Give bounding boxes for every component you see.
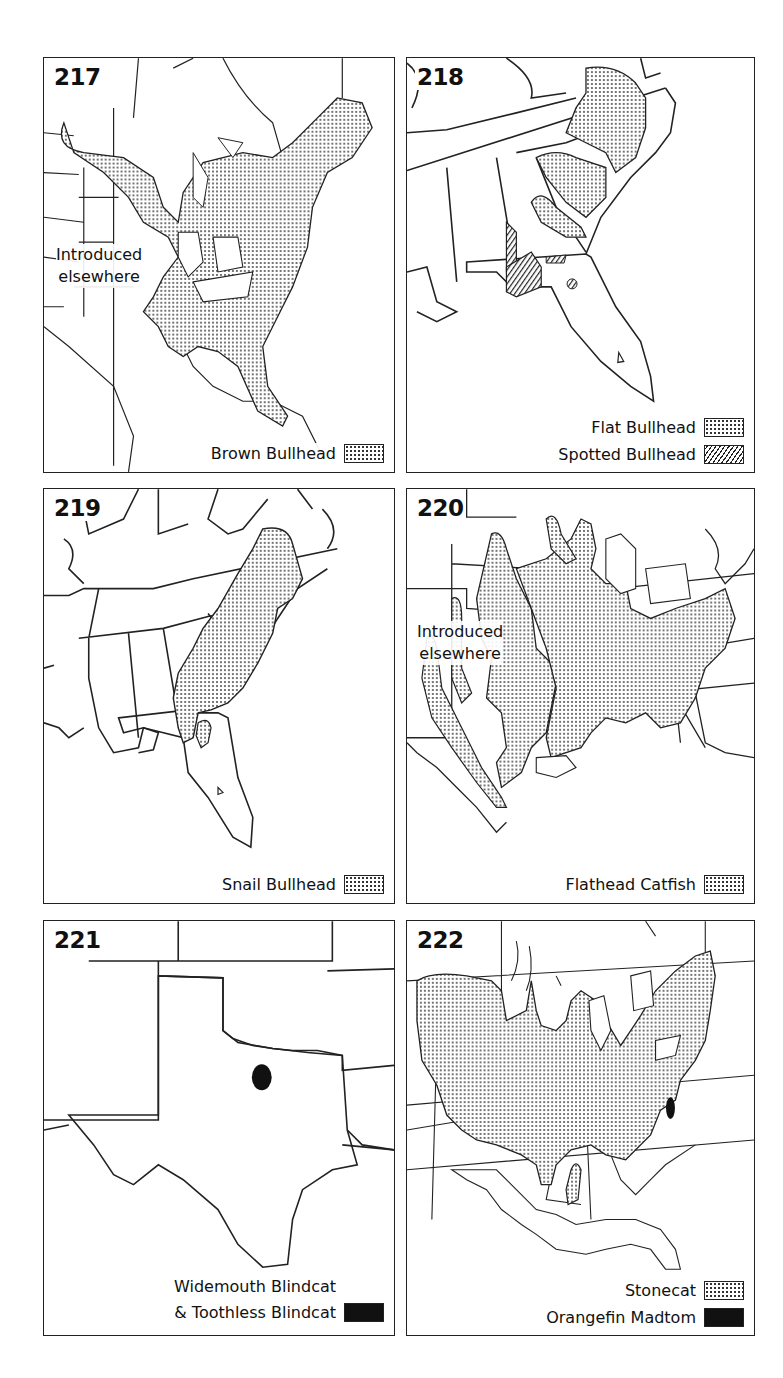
legend-label: Snail Bullhead — [222, 875, 336, 894]
figure-number: 217 — [52, 64, 103, 90]
legend-item: Flat Bullhead — [589, 417, 746, 438]
legend-label: Spotted Bullhead — [558, 445, 696, 464]
range-map-flat-spotted-bullhead — [407, 58, 754, 472]
figure-number: 218 — [415, 64, 466, 90]
figure-number: 221 — [52, 927, 103, 953]
legend-label: Flathead Catfish — [565, 875, 696, 894]
legend-label: Flat Bullhead — [591, 418, 696, 437]
solid-swatch-icon — [704, 1308, 744, 1327]
legend-item: Spotted Bullhead — [556, 444, 746, 465]
legend-item: Brown Bullhead — [209, 443, 386, 464]
stipple-swatch-icon — [704, 418, 744, 437]
range-map-snail-bullhead — [44, 489, 394, 903]
annotation-line-2: elsewhere — [56, 266, 142, 288]
legend-item: Orangefin Madtom — [544, 1307, 746, 1328]
hatch-swatch-icon — [704, 445, 744, 464]
legend-item: Snail Bullhead — [220, 874, 386, 895]
range-map-stonecat-orangefin-madtom — [407, 921, 754, 1335]
introduced-elsewhere-note: Introduced elsewhere — [56, 244, 142, 288]
solid-swatch-icon — [344, 1303, 384, 1322]
map-panel-220: 220 Introduced elsewhere Flathead Catfis… — [406, 488, 755, 904]
map-panel-221: 221 Widemouth Blindcat & Toothless Blind… — [43, 920, 395, 1336]
map-panel-222: 222 Stonecat Orangefin Madtom — [406, 920, 755, 1336]
stipple-swatch-icon — [704, 875, 744, 894]
legend-item: Widemouth Blindcat & Toothless Blindcat — [172, 1273, 386, 1327]
map-panel-219: 219 Snail Bullhead — [43, 488, 395, 904]
stipple-swatch-icon — [704, 1281, 744, 1300]
figure-number: 220 — [415, 495, 466, 521]
map-panel-218: 218 Flat Bullhead Spotted Bullhead — [406, 57, 755, 473]
legend-item: Stonecat — [623, 1280, 746, 1301]
stipple-swatch-icon — [344, 875, 384, 894]
legend-label: Stonecat — [625, 1281, 696, 1300]
figure-number: 219 — [52, 495, 103, 521]
legend-label: Brown Bullhead — [211, 444, 336, 463]
annotation-line-2: elsewhere — [417, 643, 503, 665]
legend-label-line-1: Widemouth Blindcat — [174, 1274, 336, 1300]
map-panel-217: 217 Introduced elsewhere Brown Bullhead — [43, 57, 395, 473]
stipple-swatch-icon — [344, 444, 384, 463]
annotation-line-1: Introduced — [56, 244, 142, 266]
legend-label: Widemouth Blindcat & Toothless Blindcat — [174, 1274, 336, 1326]
range-map-flathead-catfish — [407, 489, 754, 903]
legend-item: Flathead Catfish — [563, 874, 746, 895]
annotation-line-1: Introduced — [417, 621, 503, 643]
legend-label-line-2: & Toothless Blindcat — [174, 1300, 336, 1326]
introduced-elsewhere-note: Introduced elsewhere — [417, 621, 503, 665]
figure-number: 222 — [415, 927, 466, 953]
legend-label: Orangefin Madtom — [546, 1308, 696, 1327]
